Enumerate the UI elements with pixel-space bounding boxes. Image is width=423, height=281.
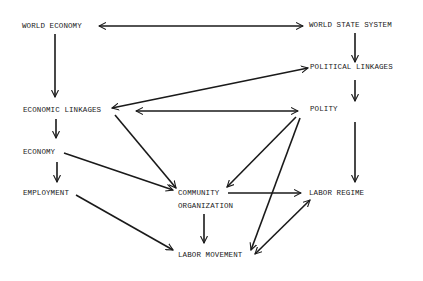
node-community-organization-line2: ORGANIZATION (178, 200, 233, 213)
edge-labor-movement-labor-regime (255, 200, 310, 254)
node-political-linkages: POLITICAL LINKAGES (310, 61, 393, 74)
node-economic-linkages: ECONOMIC LINKAGES (23, 104, 101, 117)
node-employment: EMPLOYMENT (23, 187, 69, 200)
edge-economy-community (64, 153, 173, 190)
node-labor-regime: LABOR REGIME (309, 187, 364, 200)
node-economy: ECONOMY (23, 146, 55, 159)
node-world-state-system: WORLD STATE SYSTEM (309, 19, 392, 32)
node-labor-movement: LABOR MOVEMENT (178, 249, 242, 262)
edge-polity-community (227, 117, 296, 187)
labor-regime-diagram: WORLD ECONOMY WORLD STATE SYSTEM POLITIC… (0, 0, 423, 281)
edge-economic-linkages-community (115, 115, 176, 188)
node-polity: POLITY (310, 103, 338, 116)
node-community-organization-line1: COMMUNITY (178, 187, 219, 200)
edge-political-economic-linkages (112, 68, 308, 108)
edge-employment-labor-movement (76, 195, 173, 250)
node-world-economy: WORLD ECONOMY (22, 20, 82, 33)
edges-layer (0, 0, 423, 281)
